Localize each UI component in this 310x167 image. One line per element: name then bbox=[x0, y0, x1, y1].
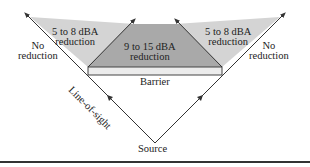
right-no-reduction-line2: reduction bbox=[249, 51, 289, 61]
left-zone-label: 5 to 8 dBA reduction bbox=[52, 27, 98, 47]
left-zone-label-line2: reduction bbox=[52, 37, 98, 47]
right-zone-label-line2: reduction bbox=[205, 37, 251, 47]
left-no-reduction-label: No reduction bbox=[18, 41, 58, 61]
right-no-reduction-label: No reduction bbox=[249, 41, 289, 61]
right-zone-label: 5 to 8 dBA reduction bbox=[205, 27, 251, 47]
barrier-shape bbox=[88, 67, 222, 75]
barrier-label: Barrier bbox=[140, 77, 170, 87]
left-no-reduction-line2: reduction bbox=[18, 51, 58, 61]
source-label: Source bbox=[138, 144, 167, 154]
center-zone-label-line2: reduction bbox=[124, 52, 176, 62]
footer-rule bbox=[0, 161, 310, 163]
barrier-diagram: 5 to 8 dBA reduction 9 to 15 dBA reducti… bbox=[0, 0, 310, 167]
center-zone-label: 9 to 15 dBA reduction bbox=[124, 42, 176, 62]
